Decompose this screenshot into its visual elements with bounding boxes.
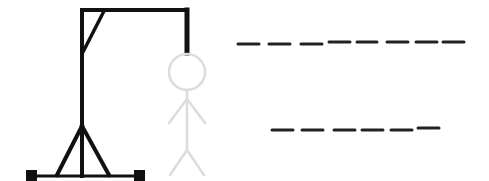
gallows-foot-left [26,170,37,181]
stick-figure [169,54,205,175]
gallows [26,10,187,181]
gallows-strut-left [57,126,82,175]
word-row-1 [238,42,464,44]
hangman-board [0,0,489,181]
figure-arm-left [169,99,187,123]
gallows-foot-right [134,170,145,181]
word-row-2 [272,128,439,130]
figure-leg-left [170,150,187,175]
figure-arm-right [187,99,205,123]
gallows-strut-right [82,126,109,175]
figure-head [169,54,205,90]
gallows-brace [83,11,104,52]
figure-leg-right [187,150,204,175]
